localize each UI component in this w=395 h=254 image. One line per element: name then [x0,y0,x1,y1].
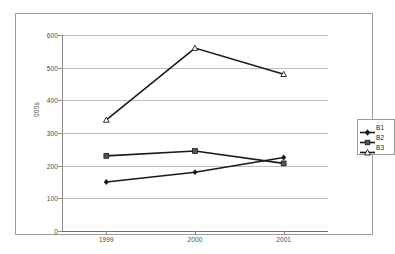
x-axis-ticks: 1999 2000 2001 [62,236,328,250]
legend-label-b2: B2 [376,133,384,142]
triangle-marker-icon [359,143,376,152]
data-point-b2-2000 [193,149,198,154]
y-axis-ticks: 600 500 400 300 200 100 0 [34,35,58,231]
data-point-b2-2001 [281,161,286,166]
series-layer [62,35,328,231]
y-tick-label-100: 100 [47,195,58,202]
y-tick-mark-0 [58,231,62,232]
legend-item-b2[interactable]: B2 [359,132,392,142]
chart-legend: B1 B2 B3 [357,119,395,155]
y-tick-label-300: 300 [47,130,58,137]
x-tick-mark-2000 [195,231,196,235]
data-point-b1-2001 [281,155,286,161]
x-tick-label-1999: 1999 [99,236,114,243]
y-tick-label-500: 500 [47,64,58,71]
x-tick-mark-1999 [106,231,107,235]
series-line-b3 [106,48,283,120]
diamond-marker-icon [359,123,376,132]
y-tick-label-200: 200 [47,162,58,169]
data-point-b2-1999 [104,153,109,158]
chart-frame: 600 500 400 300 200 100 0 000s 1999 2000… [15,13,373,235]
x-tick-mark-2001 [284,231,285,235]
data-point-b3-2000 [192,45,198,50]
y-axis-title: 000s [33,102,40,117]
legend-item-b1[interactable]: B1 [359,122,392,132]
x-tick-label-2000: 2000 [188,236,203,243]
legend-item-b3[interactable]: B3 [359,142,392,152]
x-tick-label-2001: 2001 [276,236,291,243]
y-tick-label-400: 400 [47,97,58,104]
y-tick-label-600: 600 [47,32,58,39]
series-lines [106,48,283,182]
data-point-b1-2000 [192,169,197,175]
legend-label-b1: B1 [376,123,384,132]
data-point-b1-1999 [104,179,109,185]
legend-label-b3: B3 [376,143,384,152]
square-marker-icon [359,133,376,142]
